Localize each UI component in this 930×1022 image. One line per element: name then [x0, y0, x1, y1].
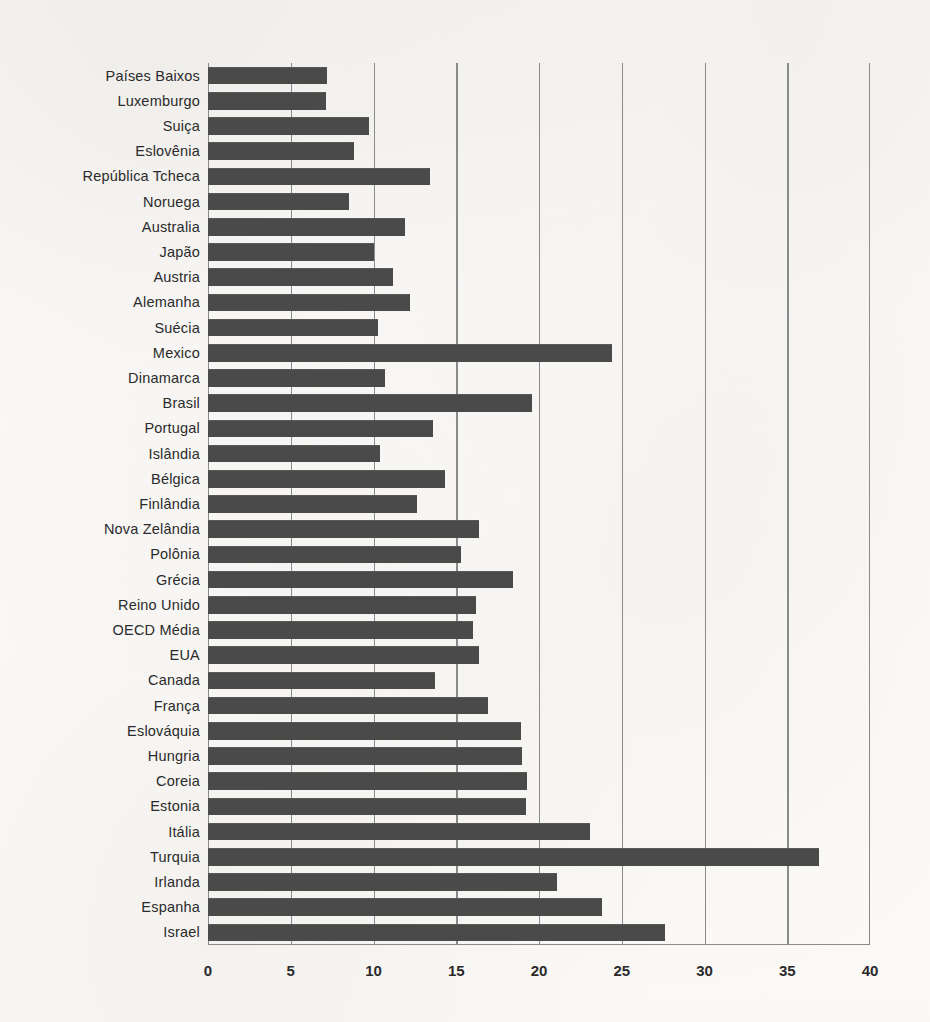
category-label: Portugal — [144, 421, 200, 436]
bar — [208, 92, 326, 110]
bar — [208, 898, 602, 916]
category-label: Bélgica — [151, 472, 200, 487]
bar — [208, 873, 557, 891]
category-label: Austria — [153, 270, 200, 285]
category-label: República Tcheca — [83, 169, 200, 184]
bar — [208, 722, 521, 740]
category-label: Grécia — [156, 573, 200, 588]
x-tick-label: 25 — [613, 963, 630, 978]
category-label: Coreia — [156, 774, 200, 789]
bar — [208, 142, 354, 160]
bar — [208, 823, 590, 841]
bar — [208, 394, 532, 412]
bar — [208, 344, 612, 362]
bar — [208, 747, 522, 765]
category-label: Irlanda — [154, 875, 200, 890]
bar — [208, 470, 445, 488]
category-label: Reino Unido — [118, 598, 200, 613]
bar — [208, 420, 433, 438]
x-tick-label: 5 — [287, 963, 295, 978]
x-tick-label: 30 — [696, 963, 713, 978]
bar — [208, 168, 430, 186]
bar — [208, 369, 385, 387]
category-axis-labels: Países BaixosLuxemburgoSuiçaEslovêniaRep… — [0, 63, 208, 945]
bar — [208, 798, 526, 816]
category-label: Japão — [159, 245, 200, 260]
category-label: Suiça — [163, 119, 200, 134]
category-label: Australia — [142, 220, 200, 235]
bar — [208, 571, 513, 589]
category-label: EUA — [170, 648, 200, 663]
category-label: Mexico — [153, 346, 200, 361]
category-label: Finlândia — [139, 497, 200, 512]
bar — [208, 621, 473, 639]
x-tick-label: 10 — [365, 963, 382, 978]
category-label: Israel — [163, 925, 200, 940]
category-label: Itália — [168, 825, 200, 840]
category-label: Suécia — [154, 321, 200, 336]
x-tick-label: 20 — [531, 963, 548, 978]
category-label: Polônia — [150, 547, 200, 562]
bar — [208, 596, 476, 614]
category-label: OECD Média — [113, 623, 200, 638]
category-label: França — [154, 699, 200, 714]
bar — [208, 495, 417, 513]
bar — [208, 243, 374, 261]
bar — [208, 848, 819, 866]
category-label: Canada — [148, 673, 200, 688]
category-label: Dinamarca — [128, 371, 200, 386]
category-label: Eslovênia — [135, 144, 200, 159]
bar — [208, 772, 527, 790]
x-tick-label: 40 — [862, 963, 879, 978]
category-label: Noruega — [143, 195, 200, 210]
x-tick-label: 0 — [204, 963, 212, 978]
category-label: Estonia — [150, 799, 200, 814]
bar — [208, 319, 378, 337]
bar — [208, 445, 380, 463]
bar — [208, 697, 488, 715]
plot-area — [208, 63, 870, 945]
category-label: Turquia — [150, 850, 200, 865]
bar — [208, 546, 461, 564]
x-tick-label: 35 — [779, 963, 796, 978]
bar — [208, 117, 369, 135]
gridline — [539, 63, 540, 945]
category-label: Hungria — [148, 749, 200, 764]
category-label: Países Baixos — [106, 69, 200, 84]
gridline — [622, 63, 623, 945]
bar — [208, 672, 435, 690]
category-label: Brasil — [163, 396, 200, 411]
category-label: Islândia — [148, 447, 200, 462]
gridline — [787, 63, 788, 945]
bar — [208, 67, 327, 85]
x-tick-label: 15 — [448, 963, 465, 978]
category-label: Eslováquia — [127, 724, 200, 739]
gridline — [705, 63, 706, 945]
category-label: Espanha — [141, 900, 200, 915]
bar — [208, 268, 393, 286]
category-label: Alemanha — [133, 295, 200, 310]
bar — [208, 520, 479, 538]
bar — [208, 294, 410, 312]
bar — [208, 193, 349, 211]
category-label: Nova Zelândia — [104, 522, 200, 537]
bar — [208, 924, 665, 942]
chart-page: Países BaixosLuxemburgoSuiçaEslovêniaRep… — [0, 0, 930, 1022]
horizontal-bar-chart: Países BaixosLuxemburgoSuiçaEslovêniaRep… — [0, 0, 930, 1022]
category-label: Luxemburgo — [117, 94, 200, 109]
bar — [208, 218, 405, 236]
bar — [208, 646, 479, 664]
